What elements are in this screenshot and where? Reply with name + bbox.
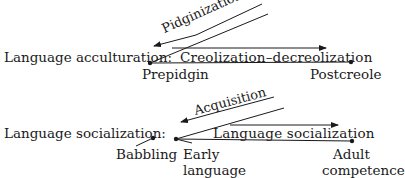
early-language-label-line2: language: [183, 164, 246, 178]
adult-competence-label-line2: competence: [322, 164, 405, 178]
postcreole-label: Postcreole: [310, 68, 381, 82]
early-language-label-line1: Early: [183, 148, 219, 162]
creolization-label: Creolization–decreolization: [180, 51, 373, 65]
prepidgin-label: Prepidgin: [142, 68, 209, 82]
acculturation-row-label: Language acculturation:: [4, 51, 172, 65]
adult-competence-label-line1: Adult: [333, 148, 370, 162]
pidginization-arrow: [154, 35, 196, 46]
socialization-row-label: Language socialization:: [4, 127, 166, 141]
babbling-label: Babbling: [116, 148, 177, 162]
language-socialization-process-label: Language socialization: [213, 127, 375, 141]
